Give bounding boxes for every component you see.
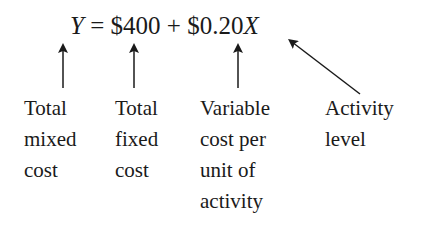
- label-line: mixed: [24, 124, 77, 155]
- label-line: Total: [115, 93, 158, 124]
- label-line: unit of: [200, 155, 270, 186]
- label-line: cost: [24, 155, 77, 186]
- label-activity-level: Activity level: [325, 93, 394, 155]
- arrow-activity-level: [292, 42, 360, 94]
- label-line: Activity: [325, 93, 394, 124]
- label-line: cost: [115, 155, 158, 186]
- label-total-fixed-cost: Total fixed cost: [115, 93, 158, 186]
- label-line: cost per: [200, 124, 270, 155]
- label-line: Variable: [200, 93, 270, 124]
- label-line: fixed: [115, 124, 158, 155]
- label-total-mixed-cost: Total mixed cost: [24, 93, 77, 186]
- label-variable-cost-per-unit: Variable cost per unit of activity: [200, 93, 270, 217]
- label-line: Total: [24, 93, 77, 124]
- label-line: activity: [200, 186, 270, 217]
- label-line: level: [325, 124, 394, 155]
